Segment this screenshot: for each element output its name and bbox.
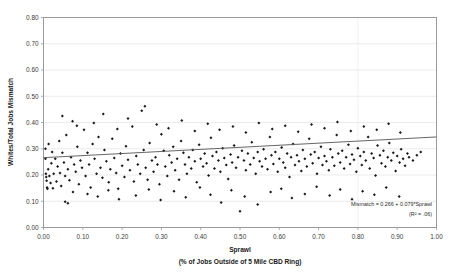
- chart-background: [0, 0, 454, 276]
- y-tick-label: 0.30: [26, 145, 39, 152]
- x-tick-label: 0.70: [312, 233, 325, 240]
- y-axis-title: Whites/Total Jobs Mismatch: [7, 78, 14, 166]
- x-tick-label: 0.30: [155, 233, 168, 240]
- x-tick-label: 1.00: [430, 233, 443, 240]
- x-tick-label: 0.00: [37, 233, 50, 240]
- y-tick-label: 0.70: [26, 40, 39, 47]
- x-tick-label: 0.10: [77, 233, 90, 240]
- x-tick-label: 0.60: [273, 233, 286, 240]
- x-axis-subtitle: (% of Jobs Outside of 5 Mile CBD Ring): [179, 258, 302, 266]
- x-tick-label: 0.20: [116, 233, 129, 240]
- chart-svg: 0.000.100.200.300.400.500.600.700.80 0.0…: [0, 0, 454, 276]
- y-tick-label: 0.20: [26, 171, 39, 178]
- x-tick-label: 0.90: [391, 233, 404, 240]
- scatter-chart-figure: 0.000.100.200.300.400.500.600.700.80 0.0…: [0, 0, 454, 276]
- regression-equation-annotation: Mismatch = 0.266 + 0.079*Sprawl: [351, 201, 432, 207]
- x-tick-label: 0.50: [234, 233, 247, 240]
- y-tick-label: 0.40: [26, 119, 39, 126]
- x-tick-label: 0.80: [352, 233, 365, 240]
- r-squared-annotation: (R² = .06): [409, 211, 432, 217]
- x-axis-title: Sprawl: [229, 246, 251, 254]
- y-tick-label: 0.10: [26, 198, 39, 205]
- x-tick-label: 0.40: [194, 233, 207, 240]
- y-tick-label: 0.00: [26, 224, 39, 231]
- y-tick-label: 0.60: [26, 66, 39, 73]
- y-tick-label: 0.80: [26, 14, 39, 21]
- y-tick-label: 0.50: [26, 93, 39, 100]
